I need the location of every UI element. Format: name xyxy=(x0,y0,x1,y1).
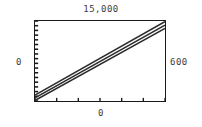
data-line-band xyxy=(35,22,165,101)
x-axis-max-tick-label: 600 xyxy=(170,57,200,67)
x-axis-min-tick-label: 0 xyxy=(0,108,202,118)
y-axis-min-tick-label: 0 xyxy=(6,57,32,67)
plot-area xyxy=(34,20,166,102)
figure-canvas: 15,000 0 600 0 xyxy=(0,0,202,127)
x-axis-tick-marks xyxy=(35,98,165,101)
plot-lines-svg xyxy=(35,21,165,101)
chart-title: 15,000 xyxy=(0,4,202,14)
y-axis-tick-marks xyxy=(35,21,38,101)
